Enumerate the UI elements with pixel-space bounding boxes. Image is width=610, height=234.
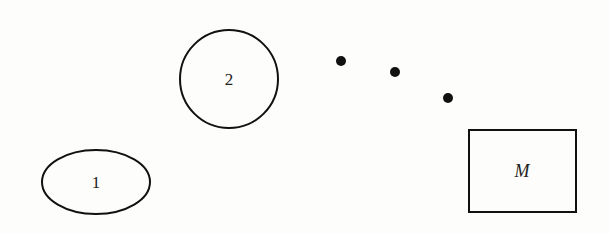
node-M-label: M	[514, 161, 531, 181]
ellipsis-dots	[336, 56, 453, 103]
ellipsis-dot	[390, 67, 400, 77]
node-1-label: 1	[92, 173, 101, 192]
diagram-svg: 1 2 M	[0, 0, 610, 234]
diagram-canvas: 1 2 M	[0, 0, 610, 234]
node-2-label: 2	[225, 70, 234, 89]
node-1: 1	[42, 150, 150, 214]
node-2: 2	[180, 30, 278, 128]
ellipsis-dot	[336, 56, 346, 66]
node-M: M	[469, 130, 576, 212]
ellipsis-dot	[443, 93, 453, 103]
